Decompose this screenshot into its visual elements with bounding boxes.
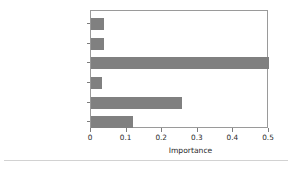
- bars-layer: [91, 11, 267, 127]
- xtick-label-4: 0.4: [227, 133, 239, 142]
- bar-row: [91, 34, 104, 54]
- bar-row: [91, 53, 269, 73]
- bar-tire-width[interactable]: [91, 77, 102, 89]
- bar-car-velocity[interactable]: [91, 97, 182, 109]
- xtick-mark-4: [232, 128, 233, 132]
- bottom-divider: [4, 160, 288, 161]
- bar-snow-road[interactable]: [91, 38, 104, 50]
- xtick-mark-3: [197, 128, 198, 132]
- xtick-mark-5: [268, 128, 269, 132]
- bar-row: [91, 73, 102, 93]
- bar-row: [91, 14, 104, 34]
- xtick-label-0: 0: [88, 133, 93, 142]
- bar-car-weight[interactable]: [91, 116, 133, 128]
- bar-tarmac-dry[interactable]: [91, 18, 104, 30]
- x-axis-label-container: Importance: [0, 146, 292, 155]
- x-axis-label: Importance: [169, 146, 213, 155]
- xtick-label-2: 0.2: [155, 133, 167, 142]
- bar-row: [91, 93, 182, 113]
- xtick-mark-2: [161, 128, 162, 132]
- xtick-label-3: 0.3: [191, 133, 203, 142]
- xtick-mark-0: [90, 128, 91, 132]
- figure-canvas: tarmac_dry snow_road distance_to_object …: [0, 0, 292, 169]
- plot-area: [90, 10, 268, 128]
- xtick-mark-1: [126, 128, 127, 132]
- xtick-label-5: 0.5: [262, 133, 274, 142]
- bar-distance-to-object[interactable]: [91, 57, 269, 69]
- xtick-label-1: 0.1: [120, 133, 132, 142]
